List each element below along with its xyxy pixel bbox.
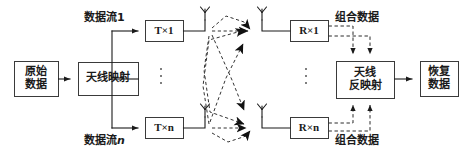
channel-path-tx1-rxn <box>212 35 244 110</box>
link-rx1-combined-b <box>329 36 371 54</box>
box-tx-n <box>146 118 184 139</box>
channel-path-tx1-scatter <box>204 36 244 124</box>
channel-path-txn-scatter <box>203 30 245 124</box>
box-source-data <box>15 62 59 97</box>
block-outlines <box>15 21 459 139</box>
channel-path-txn-rx1 <box>210 44 243 122</box>
box-recovered-data <box>421 62 459 97</box>
diagram-canvas <box>0 0 470 157</box>
link-antenna-to-rx1 <box>262 20 290 31</box>
tx-antenna-1-icon <box>201 7 210 20</box>
link-rxn-combined-b <box>329 105 371 131</box>
tx-antenna-n-icon <box>201 104 210 117</box>
rx-antenna-n-icon <box>258 104 267 117</box>
link-rx1-combined-a <box>329 26 354 54</box>
channel-path-tx1-rx1-upper <box>212 16 250 29</box>
link-txn-to-antenna <box>184 117 206 128</box>
rx-antenna-1-icon <box>258 7 267 20</box>
box-rx-1 <box>291 21 329 42</box>
channel-path-txn-rxn-lower <box>212 131 250 142</box>
box-tx-1 <box>146 21 184 42</box>
link-antenna-to-rxn <box>262 117 290 128</box>
link-rxn-combined-a <box>329 105 354 123</box>
mimo-block-diagram: 原始 数据 天线映射 T×1 T×n R×1 R×n 天线 反映射 恢复 数据 … <box>0 0 470 157</box>
channel-multipath-arrows <box>203 16 250 142</box>
box-antenna-demapping <box>337 62 395 99</box>
box-rx-n <box>291 118 329 139</box>
link-tx1-to-antenna <box>184 20 206 31</box>
